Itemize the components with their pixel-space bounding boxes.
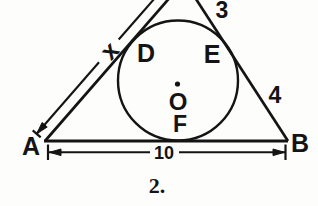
tangent-point-f-label: F — [173, 111, 187, 137]
figure-number-caption: 2. — [149, 173, 166, 198]
measure-x-label: x — [94, 36, 124, 65]
triangle-inscribed-circle-diagram: A B D E O F 3 4 x 10 2. — [0, 0, 318, 206]
dimension-left-side — [33, 0, 162, 137]
measure-3-label: 3 — [216, 0, 229, 23]
circle-center-dot — [175, 81, 180, 86]
vertex-b-label: B — [291, 129, 309, 157]
measure-10-label: 10 — [154, 143, 174, 163]
triangle-right-side — [183, 0, 288, 141]
tangent-point-e-label: E — [204, 40, 221, 68]
geometry-figure: A B D E O F 3 4 x 10 2. — [0, 0, 318, 206]
tangent-point-d-label: D — [137, 39, 155, 67]
dimension-base-right-arrowhead — [273, 149, 285, 156]
dimension-x-line-lower — [37, 62, 99, 134]
measure-4-label: 4 — [269, 82, 282, 108]
vertex-a-label: A — [22, 132, 40, 160]
dimension-base-left-arrowhead — [50, 149, 62, 156]
